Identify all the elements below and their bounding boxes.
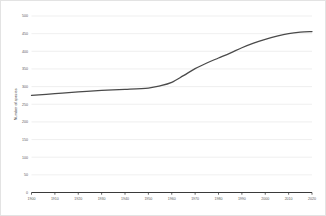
x-tick-label: 2020 [308,197,316,201]
y-tick-label: 100 [22,156,28,160]
line-chart: 050100150200250300350400450500 190019101… [1,1,326,216]
y-tick-label: 350 [22,67,28,71]
x-tick-label: 1990 [238,197,246,201]
x-tick-label: 2000 [261,197,269,201]
x-tick-label: 1970 [191,197,199,201]
x-tick-label: 1910 [51,197,59,201]
x-tick-label: 2010 [285,197,293,201]
gridlines [32,16,313,175]
x-tick-label: 1920 [74,197,82,201]
y-tick-label: 0 [26,191,28,195]
x-tick-label: 1940 [121,197,129,201]
x-tick-label: 1980 [215,197,223,201]
y-tick-label: 300 [22,85,28,89]
x-tick-label: 1930 [98,197,106,201]
y-tick-label: 500 [22,14,28,18]
x-axis-tick-labels: 1900191019201930194019501960197019801990… [28,197,317,201]
chart-figure: 050100150200250300350400450500 190019101… [0,0,326,216]
y-tick-label: 200 [22,120,28,124]
x-tick-label: 1900 [28,197,36,201]
x-tick-label: 1950 [144,197,152,201]
y-axis-tick-labels: 050100150200250300350400450500 [22,14,28,195]
y-axis-title: Number of species [14,88,18,120]
y-tick-label: 50 [24,173,28,177]
y-tick-label: 250 [22,103,28,107]
y-tick-label: 450 [22,32,28,36]
data-series-line [32,32,313,96]
y-tick-label: 150 [22,138,28,142]
y-tick-label: 400 [22,50,28,54]
x-tick-label: 1960 [168,197,176,201]
